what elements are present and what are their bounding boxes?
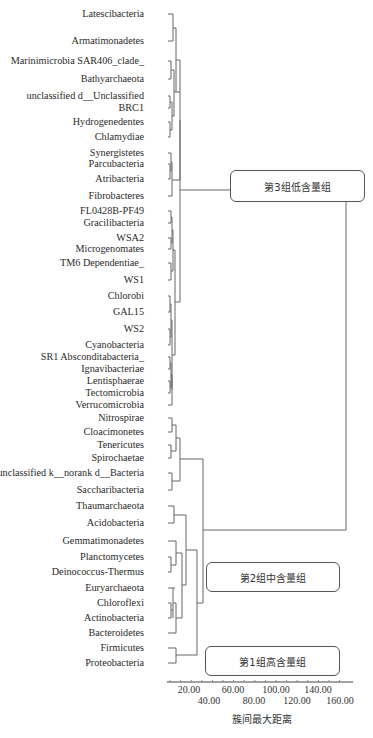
leaf-label: Marinimicrobia SAR406_clade_	[11, 55, 144, 67]
x-tick-label: 140.00	[304, 684, 332, 695]
leaf-label: SR1 Absconditabacteria_	[41, 351, 144, 363]
dendrogram-chart	[0, 0, 373, 738]
leaf-label: unclassified k__norank d__Bacteria	[0, 467, 144, 479]
leaf-label: WS2	[124, 323, 144, 335]
leaf-label: Atribacteria	[95, 173, 144, 185]
group-label-box: 第2组中含量组	[206, 562, 340, 592]
leaf-label: Tenericutes	[97, 439, 144, 451]
leaf-label: Latescibacteria	[82, 8, 144, 20]
x-tick-label: 160.00	[326, 695, 354, 706]
x-tick-label: 20.00	[178, 684, 201, 695]
leaf-label: Chlamydiae	[95, 131, 144, 143]
leaf-label: Ignavibacteriae	[81, 363, 144, 375]
group-label-box: 第3组低含量组	[230, 170, 365, 202]
leaf-label: Lentisphaerae	[87, 375, 144, 387]
leaf-label: Fibrobacteres	[89, 190, 144, 202]
x-axis-title: 簇间最大距离	[232, 711, 292, 726]
leaf-label: Planctomycetes	[80, 551, 144, 563]
leaf-label: unclassified d__Unclassified	[27, 90, 144, 102]
leaf-label: Thaumarchaeota	[76, 500, 144, 512]
group-label-box: 第1组高含量组	[205, 646, 340, 676]
leaf-label: Cloacimonetes	[83, 426, 144, 438]
leaf-label: Nitrospirae	[98, 412, 144, 424]
x-axis	[167, 680, 353, 682]
leaf-label: Deinococcus-Thermus	[52, 566, 144, 578]
leaf-label: TM6 Dependentiae_	[60, 257, 144, 269]
leaf-label: Microgenomates	[76, 243, 144, 255]
leaf-label: WS1	[124, 274, 144, 286]
leaf-label: BRC1	[119, 102, 144, 114]
leaf-label: Spirochaetae	[91, 452, 144, 464]
x-tick-label: 60.00	[222, 684, 245, 695]
leaf-label: Proteobacteria	[85, 657, 144, 669]
leaf-label: Saccharibacteria	[77, 484, 144, 496]
leaf-label: Acidobacteria	[87, 517, 144, 529]
leaf-label: Cyanobacteria	[85, 339, 144, 351]
x-tick-label: 80.00	[243, 695, 266, 706]
x-tick-label: 100.00	[262, 684, 290, 695]
leaf-label: Actinobacteria	[84, 612, 144, 624]
leaf-label: Chloroflexi	[97, 597, 144, 609]
leaf-label: Euryarchaeota	[85, 582, 144, 594]
leaf-label: Bathyarchaeota	[81, 73, 144, 85]
leaf-label: Verrucomicrobia	[76, 399, 144, 411]
leaf-label: Tectomicrobia	[85, 387, 144, 399]
leaf-label: FL0428B-PF49	[80, 205, 144, 217]
leaf-label: Armatimonadetes	[72, 35, 144, 47]
leaf-label: Chlorobi	[108, 290, 144, 302]
leaf-label: Bacteroidetes	[89, 627, 144, 639]
x-tick-label: 120.00	[283, 695, 311, 706]
x-tick-label: 40.00	[198, 695, 221, 706]
leaf-label: Parcubacteria	[89, 158, 144, 170]
leaf-label: GAL15	[113, 306, 144, 318]
leaf-label: Hydrogenedentes	[73, 116, 144, 128]
leaf-label: Gracilibacteria	[83, 217, 144, 229]
leaf-label: Gemmatimonadetes	[63, 535, 144, 547]
leaf-label: Firmicutes	[100, 642, 144, 654]
